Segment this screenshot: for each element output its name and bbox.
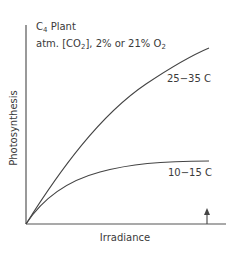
chart-subtitle: atm. [CO2], 2% or 21% O2 bbox=[36, 38, 166, 51]
series-label-25-35c: 25−35 C bbox=[167, 73, 211, 84]
arrow-head-icon bbox=[204, 208, 210, 215]
series-label-10-15c: 10−15 C bbox=[168, 167, 212, 178]
chart-title: C4 Plant bbox=[36, 21, 76, 34]
x-axis-label: Irradiance bbox=[100, 232, 150, 243]
y-axis-label: Photosynthesis bbox=[8, 90, 19, 166]
chart: C4 Plant atm. [CO2], 2% or 21% O2 25−35 … bbox=[0, 0, 238, 254]
